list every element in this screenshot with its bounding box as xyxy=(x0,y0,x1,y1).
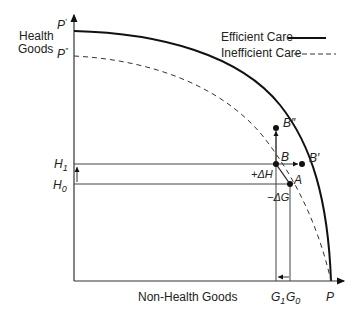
point-b xyxy=(273,161,279,167)
inefficient-care-curve xyxy=(74,56,331,281)
delta-g-label: −ΔG xyxy=(267,191,290,203)
a-label: A xyxy=(293,173,302,187)
p-prime-label: P′ xyxy=(57,17,67,32)
b-prime-label: B′ xyxy=(309,151,320,165)
legend: Efficient Care Inefficient Care xyxy=(221,30,336,60)
y-axis-label-line2: Goods xyxy=(18,42,53,56)
p-double-prime-label: P″ xyxy=(57,46,69,61)
b-label: B xyxy=(281,150,289,164)
point-b-double xyxy=(273,125,279,131)
ppf-diagram: Health Goods Non-Health Goods Efficient … xyxy=(0,0,361,315)
legend-efficient-label: Efficient Care xyxy=(221,30,293,44)
g1-label: G1 xyxy=(271,290,285,306)
h0-label: H0 xyxy=(53,178,67,194)
g0-label: G0 xyxy=(286,290,300,306)
p-label: P xyxy=(326,290,334,304)
efficient-care-curve xyxy=(74,31,331,281)
y-axis-label-line1: Health xyxy=(19,29,54,43)
b-double-prime-label: B″ xyxy=(283,116,296,130)
x-axis-label: Non-Health Goods xyxy=(138,290,237,304)
point-b-prime xyxy=(299,161,305,167)
delta-h-label: +ΔH xyxy=(251,168,273,180)
h1-label: H1 xyxy=(54,157,68,173)
a-to-b-segment xyxy=(276,164,290,184)
point-a xyxy=(287,181,293,187)
legend-inefficient-label: Inefficient Care xyxy=(221,46,302,60)
